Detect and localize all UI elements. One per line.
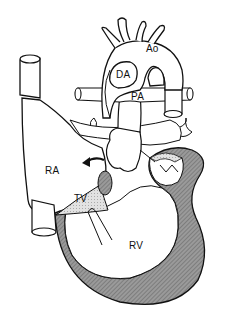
aortic-root <box>106 128 141 172</box>
label-rv: RV <box>129 240 143 251</box>
label-pa: PA <box>131 91 144 102</box>
label-da: DA <box>116 69 130 80</box>
heart-diagram <box>0 0 230 317</box>
label-tv: TV <box>74 193 87 204</box>
septal-structure <box>98 171 112 195</box>
label-ra: RA <box>45 165 59 176</box>
label-ao: Ao <box>146 43 159 54</box>
